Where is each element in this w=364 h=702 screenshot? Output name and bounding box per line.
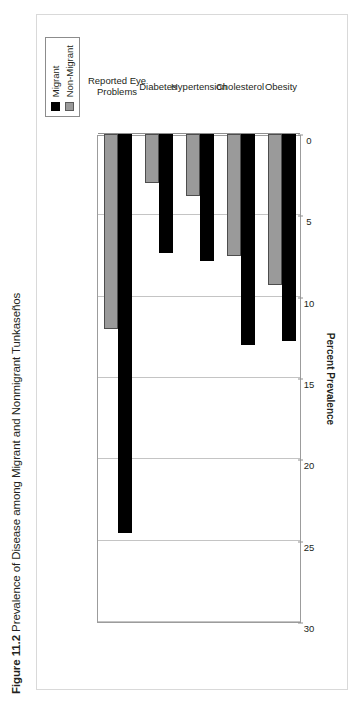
category-label: Hypertension xyxy=(157,82,241,93)
legend-label-migrant: Migrant xyxy=(50,66,61,98)
tick-mark xyxy=(298,297,303,298)
tick-mark xyxy=(298,216,303,217)
legend-item-non-migrant: Non-Migrant xyxy=(64,45,75,111)
category-label: Diabetes xyxy=(116,82,200,93)
bar-non-migrant xyxy=(227,134,241,256)
category-label: Obesity xyxy=(239,82,323,93)
tick-label: 30 xyxy=(304,623,315,634)
bar-non-migrant xyxy=(268,134,282,285)
tick-mark xyxy=(298,623,303,624)
figure-page: Figure 11.2 Prevalence of Disease among … xyxy=(0,0,364,702)
tick-mark xyxy=(298,135,303,136)
figure-caption-text: Prevalence of Disease among Migrant and … xyxy=(10,293,22,632)
tick-label: 20 xyxy=(304,460,315,471)
tick-label: 25 xyxy=(304,542,315,553)
plot-area xyxy=(97,135,301,623)
square-swatch-icon xyxy=(51,102,60,111)
tick-mark xyxy=(298,460,303,461)
tick-mark xyxy=(298,379,303,380)
bar-migrant xyxy=(241,134,255,345)
bar-non-migrant xyxy=(104,134,118,329)
bar-migrant xyxy=(159,134,173,253)
bar-migrant xyxy=(282,134,296,341)
bar-migrant xyxy=(200,134,214,261)
tick-label: 5 xyxy=(306,216,311,227)
bar-non-migrant xyxy=(145,134,159,183)
legend-item-migrant: Migrant xyxy=(50,45,61,111)
figure-rotated-container: Figure 11.2 Prevalence of Disease among … xyxy=(0,0,364,702)
tick-mark xyxy=(298,541,303,542)
category-label: Reported Eye Problems xyxy=(75,76,159,97)
square-swatch-icon xyxy=(65,102,74,111)
category-label: Cholesterol xyxy=(198,82,282,93)
bar-non-migrant xyxy=(186,134,200,196)
bar-migrant xyxy=(118,134,132,533)
chart-container: Migrant Non-Migrant ObesityCholesterolHy… xyxy=(36,14,348,690)
legend-label-non-migrant: Non-Migrant xyxy=(64,45,75,97)
figure-number: Figure 11.2 xyxy=(10,635,22,694)
tick-label: 10 xyxy=(304,298,315,309)
tick-label: 0 xyxy=(306,135,311,146)
figure-caption: Figure 11.2 Prevalence of Disease among … xyxy=(10,94,22,694)
tick-label: 15 xyxy=(304,379,315,390)
chart-legend: Migrant Non-Migrant xyxy=(45,37,80,117)
value-axis-title: Percent Prevalence xyxy=(325,135,336,623)
bar-series-layer xyxy=(98,136,300,622)
